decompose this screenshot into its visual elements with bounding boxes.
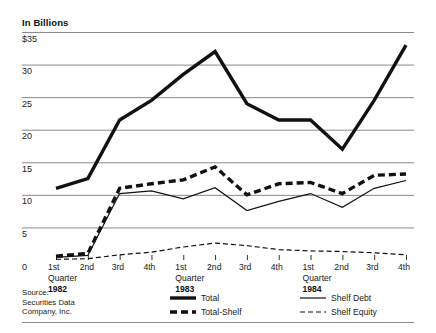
x-axis-quarter-label: 1st (303, 262, 314, 272)
series-line-total-shelf (56, 167, 406, 256)
x-axis-quarter-label: 2nd (334, 262, 348, 272)
legend-swatch-thick-solid (170, 293, 196, 303)
legend-item: Shelf Debt (300, 292, 371, 304)
chart-title: In Billions (22, 17, 69, 28)
x-axis-quarter-label: 3rd (112, 262, 124, 272)
series-line-total (56, 45, 406, 188)
source-line-2: Securities Data (22, 298, 75, 308)
plot-area (22, 32, 414, 260)
legend-item: Total-Shelf (170, 306, 242, 318)
legend-swatch-thin-solid (300, 293, 326, 303)
series-lines (22, 32, 414, 260)
source-line-3: Company, Inc. (22, 307, 75, 317)
x-axis-quarter-label: 4th (398, 262, 410, 272)
x-axis-quarter-label: 1st (48, 262, 59, 272)
legend-label: Shelf Debt (331, 293, 371, 303)
source-note: Source: Securities Data Company, Inc. (22, 288, 75, 317)
legend-label: Total (201, 293, 219, 303)
legend-swatch-thin-dashed (300, 307, 326, 317)
source-line-1: Source: (22, 288, 75, 298)
legend-label: Total-Shelf (201, 307, 242, 317)
chart-figure: In Billions 051015202530$35 1st2nd3rd4th… (0, 0, 436, 333)
series-line-shelf-equity (56, 243, 406, 259)
x-axis-quarter-label: 3rd (366, 262, 378, 272)
x-axis-quarter-label: 2nd (207, 262, 221, 272)
x-axis-group-label: Quarter (303, 273, 332, 283)
x-axis-quarter-label: 4th (143, 262, 155, 272)
legend-swatch-thick-dashed (170, 307, 196, 317)
x-axis-quarter-label: 2nd (80, 262, 94, 272)
chart-legend: TotalTotal-ShelfShelf DebtShelf Equity (170, 292, 422, 322)
x-axis-group-label: Quarter (48, 273, 77, 283)
x-axis-quarter-label: 3rd (239, 262, 251, 272)
bottom-divider (22, 322, 414, 323)
x-axis-group-label: Quarter (175, 273, 204, 283)
legend-label: Shelf Equity (331, 307, 377, 317)
x-axis-quarter-label: 1st (175, 262, 186, 272)
y-axis-tick-label: 0 (22, 262, 27, 272)
legend-item: Shelf Equity (300, 306, 377, 318)
legend-item: Total (170, 292, 219, 304)
series-line-shelf-debt (56, 181, 406, 258)
x-axis-quarter-label: 4th (271, 262, 283, 272)
